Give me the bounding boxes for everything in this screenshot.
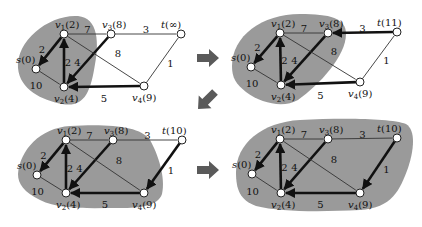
edge-weight: 3 <box>143 24 149 35</box>
node-label-t: t(10) <box>377 123 402 134</box>
edge-weight: 5 <box>101 93 107 104</box>
node-label-v3: v3(8) <box>102 19 126 32</box>
edge-weight: 1 <box>168 165 174 176</box>
node-s <box>248 170 256 178</box>
edge-weight: 2 <box>255 149 261 160</box>
edge-weight: 2 <box>254 42 260 53</box>
edge-weight: 7 <box>301 23 307 34</box>
edge-weight: 5 <box>317 90 323 101</box>
arrow-step1-to-step2-icon <box>197 49 219 67</box>
edge-weight: 7 <box>84 24 90 35</box>
node-t <box>393 134 401 142</box>
node-s <box>33 171 41 179</box>
node-label-s: s(0) <box>17 160 36 171</box>
node-label-t: t(∞) <box>161 19 181 30</box>
node-label-v4: v4(9) <box>132 199 156 212</box>
panel-step1: 2210748531s(0)v1(2)v2(4)v3(8)v4(9)t(∞) <box>16 16 185 106</box>
node-label-v4: v4(9) <box>348 88 372 101</box>
arrow-step2-to-step3-icon <box>192 86 222 116</box>
edge-weight: 4 <box>76 163 82 174</box>
edge-weight: 2 <box>281 162 287 173</box>
edge-weight: 5 <box>102 199 108 210</box>
arrow-step3-to-step4-icon <box>197 161 219 179</box>
dijkstra-diagram: 2210748531s(0)v1(2)v2(4)v3(8)v4(9)t(∞)22… <box>0 0 422 227</box>
panel-step3: 2210748531s(0)v1(2)v2(4)v3(8)v4(9)t(10) <box>17 125 187 212</box>
edge-v4-v2 <box>69 86 140 87</box>
edge-weight: 2 <box>67 163 73 174</box>
edge-weight: 8 <box>331 154 337 165</box>
node-t <box>178 136 186 144</box>
edge-weight: 1 <box>167 58 173 69</box>
edge-weight: 7 <box>86 130 92 141</box>
node-v2 <box>277 81 285 89</box>
node-label-v4: v4(9) <box>132 92 156 105</box>
edge-weight: 2 <box>65 57 71 68</box>
node-v4 <box>140 189 148 197</box>
edge-weight: 8 <box>331 46 337 57</box>
edge-weight: 1 <box>383 55 389 66</box>
node-s <box>32 65 40 73</box>
node-v4 <box>356 78 364 86</box>
node-s <box>247 63 255 71</box>
node-t <box>393 28 401 36</box>
edge-weight: 2 <box>39 44 45 55</box>
edge-weight: 10 <box>246 186 259 197</box>
node-label-v2: v2(4) <box>56 199 80 212</box>
edge-weight: 2 <box>40 150 46 161</box>
node-label-t: t(10) <box>162 125 187 136</box>
node-label-s: s(0) <box>16 54 35 65</box>
node-label-t: t(11) <box>377 17 402 28</box>
edge-weight: 8 <box>115 48 121 59</box>
panel-step2: 2210748531s(0)v1(2)v2(4)v3(8)v4(9)t(11) <box>231 14 402 104</box>
edge-weight: 8 <box>116 155 122 166</box>
edge-weight: 4 <box>74 57 80 68</box>
edge-weight: 5 <box>317 199 323 210</box>
edge-weight: 4 <box>291 162 297 173</box>
panel-step4: 2210748531s(0)v1(2)v2(4)v3(8)v4(9)t(10) <box>232 119 413 212</box>
node-v4 <box>356 189 364 197</box>
node-v2 <box>60 83 68 91</box>
edge-weight: 3 <box>359 23 365 34</box>
edge-weight: 2 <box>281 55 287 66</box>
node-label-s: s(0) <box>232 159 251 170</box>
node-t <box>177 30 185 38</box>
edge-weight: 7 <box>301 129 307 140</box>
edge-weight: 4 <box>291 55 297 66</box>
edge-weight: 10 <box>30 80 43 91</box>
edge-weight: 3 <box>144 130 150 141</box>
node-label-s: s(0) <box>231 52 250 63</box>
node-v2 <box>277 189 285 197</box>
node-v2 <box>62 189 70 197</box>
edge-weight: 3 <box>359 129 365 140</box>
edge-weight: 10 <box>246 78 259 89</box>
node-v4 <box>140 82 148 90</box>
edge-weight: 10 <box>31 186 44 197</box>
edge-weight: 1 <box>383 164 389 175</box>
